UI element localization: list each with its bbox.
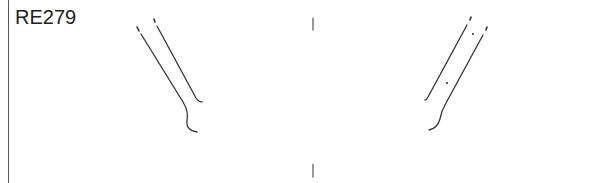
figure-frame: RE279 [0,0,612,183]
left-prong-outline [137,19,202,132]
line-drawing [0,0,612,183]
right-prong-outline [425,17,487,130]
